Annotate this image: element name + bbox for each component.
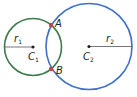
point-a-label: A [54, 18, 62, 29]
intersection-point-a [49, 23, 53, 27]
center-2-point [87, 45, 90, 48]
intersecting-circles-diagram: r1 C1 r2 C2 A B [0, 0, 137, 97]
center-1-point [31, 45, 34, 48]
center-1-label: C1 [28, 51, 39, 63]
intersection-point-b [49, 67, 53, 71]
point-b-label: B [56, 65, 63, 76]
radius-1-label: r1 [14, 33, 22, 45]
center-2-label: C2 [83, 51, 94, 63]
radius-2-label: r2 [106, 33, 114, 45]
